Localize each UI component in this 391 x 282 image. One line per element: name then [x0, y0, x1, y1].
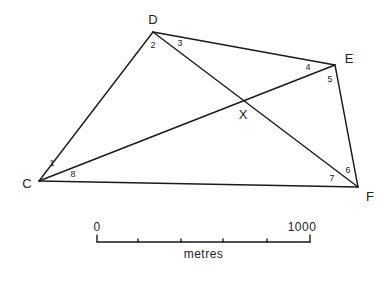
scale-start-label: 0 [93, 220, 100, 234]
intersection-label-X: X [239, 107, 248, 122]
angle-label-8: 8 [70, 169, 75, 179]
edges [39, 32, 358, 187]
vertex-label-C: C [22, 176, 31, 191]
vertex-label-E: E [345, 51, 354, 66]
edge-DE [153, 32, 335, 65]
vertex-label-F: F [366, 189, 374, 204]
edge-FC [39, 181, 358, 187]
angle-label-6: 6 [345, 165, 350, 175]
angle-label-2: 2 [150, 40, 155, 50]
angle-label-4: 4 [305, 62, 310, 72]
scale-bar: 01000metres [93, 220, 316, 261]
vertex-label-D: D [148, 12, 157, 27]
angle-label-1: 1 [49, 158, 54, 168]
survey-diagram: CDEFX 12345678 01000metres [0, 0, 391, 282]
scale-unit-label: metres [184, 247, 224, 261]
angle-label-3: 3 [177, 38, 182, 48]
angle-label-5: 5 [327, 74, 332, 84]
angle-label-7: 7 [329, 173, 334, 183]
edge-DF [153, 32, 358, 187]
scale-end-label: 1000 [288, 220, 317, 234]
